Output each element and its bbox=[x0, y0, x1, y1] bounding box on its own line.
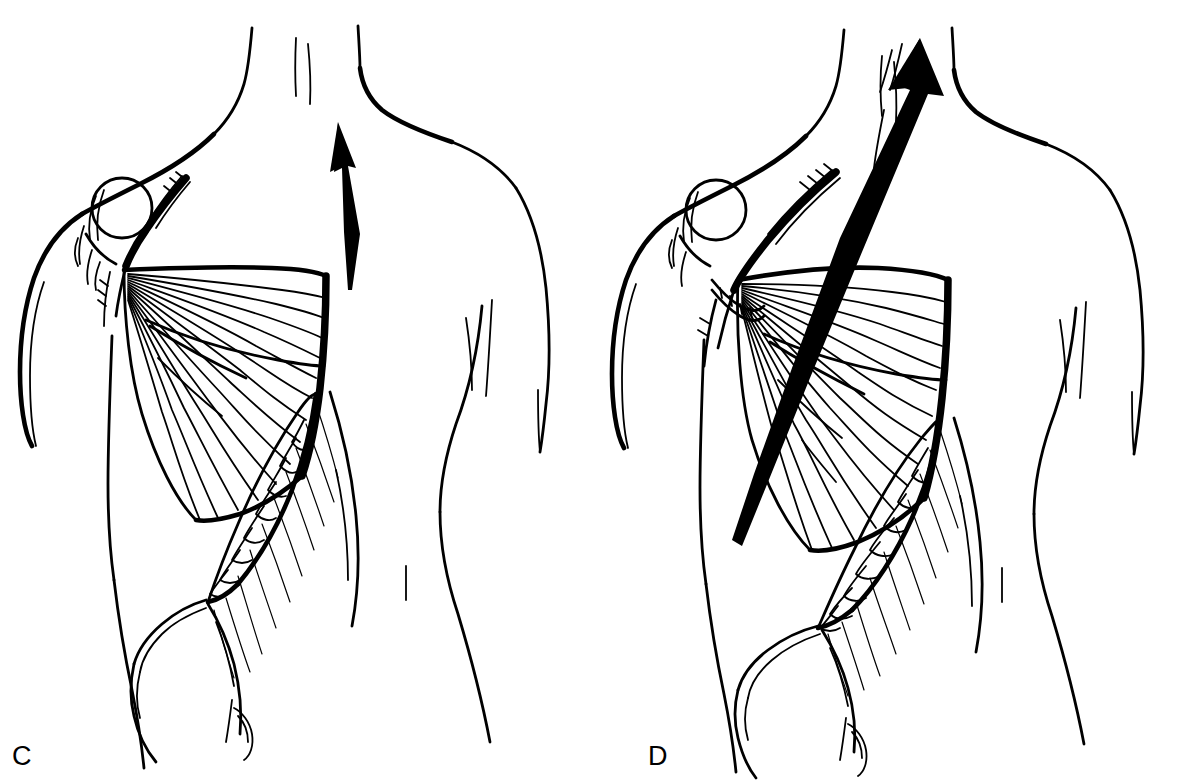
right-arm-d bbox=[1002, 190, 1143, 744]
left-arm-d bbox=[612, 216, 674, 448]
neck-and-shoulders-c bbox=[82, 26, 516, 214]
left-arm-c bbox=[20, 214, 82, 446]
rotation-arrow-c bbox=[330, 122, 360, 290]
panel-c: C bbox=[0, 0, 592, 780]
panel-d-illustration bbox=[592, 0, 1184, 780]
panel-d: D bbox=[592, 0, 1184, 780]
right-arm-c bbox=[406, 188, 549, 742]
figure-root: C bbox=[0, 0, 1185, 780]
left-flank-d bbox=[700, 340, 736, 772]
panel-c-illustration bbox=[0, 0, 592, 780]
neck-and-shoulders-d bbox=[674, 28, 1110, 216]
iliac-crest-d bbox=[735, 626, 867, 778]
external-oblique-digitations-c bbox=[208, 392, 358, 678]
external-oblique-digitations-d bbox=[818, 418, 982, 696]
panel-label-d: D bbox=[648, 743, 668, 770]
panel-label-c: C bbox=[12, 743, 32, 770]
